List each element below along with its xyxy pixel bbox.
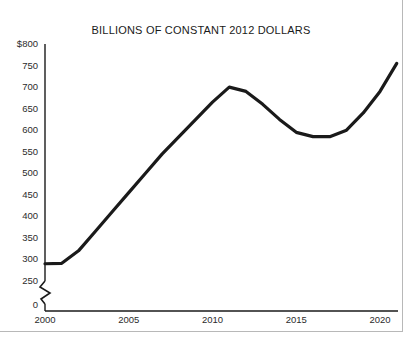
y-tick-label: 450 bbox=[0, 189, 38, 200]
data-line-series-1 bbox=[45, 63, 397, 263]
y-axis-zero-label: 0 bbox=[0, 299, 38, 310]
y-tick-label: 300 bbox=[0, 253, 38, 264]
y-tick-label: $800 bbox=[0, 38, 38, 49]
y-tick-label: 500 bbox=[0, 167, 38, 178]
x-tick-label: 2020 bbox=[360, 314, 400, 325]
y-tick-label: 350 bbox=[0, 232, 38, 243]
chart-plot-area bbox=[0, 0, 418, 350]
x-tick-label: 2000 bbox=[25, 314, 65, 325]
x-tick-label: 2005 bbox=[109, 314, 149, 325]
x-tick-label: 2010 bbox=[193, 314, 233, 325]
y-tick-label: 400 bbox=[0, 210, 38, 221]
y-tick-label: 750 bbox=[0, 60, 38, 71]
y-tick-label: 700 bbox=[0, 81, 38, 92]
x-tick-label: 2015 bbox=[276, 314, 316, 325]
y-tick-label: 550 bbox=[0, 146, 38, 157]
chart-series-group bbox=[45, 63, 397, 263]
y-tick-label: 650 bbox=[0, 103, 38, 114]
chart-figure: BILLIONS OF CONSTANT 2012 DOLLARS $80075… bbox=[0, 0, 418, 350]
chart-axes bbox=[40, 44, 398, 311]
y-axis-break-symbol bbox=[40, 281, 50, 304]
y-tick-label: 250 bbox=[0, 275, 38, 286]
y-tick-label: 600 bbox=[0, 124, 38, 135]
